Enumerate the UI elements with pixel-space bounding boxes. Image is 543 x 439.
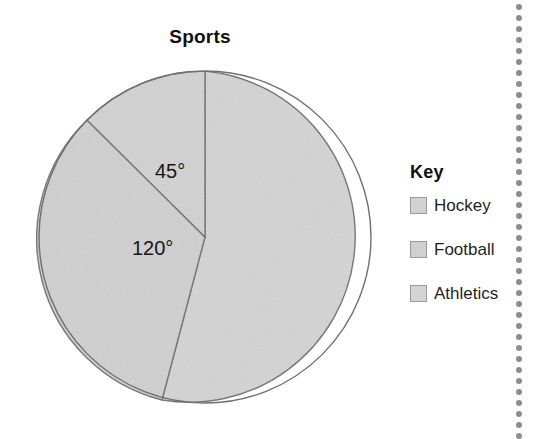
- rule-dot: [516, 378, 522, 384]
- rule-dot: [516, 191, 522, 197]
- legend-label-athletics: Athletics: [434, 285, 498, 302]
- rule-dot: [516, 323, 522, 329]
- rule-dot: [516, 26, 522, 32]
- legend-label-hockey: Hockey: [434, 197, 491, 214]
- rule-dot: [516, 125, 522, 131]
- rule-dot: [516, 334, 522, 340]
- slice-angle-label-football: 120°: [132, 237, 173, 259]
- chart-legend: Key Hockey Football Athletics: [410, 162, 520, 305]
- rule-dot: [516, 4, 522, 10]
- rule-dot: [516, 356, 522, 362]
- legend-item-athletics: Athletics: [410, 281, 520, 305]
- rule-dot: [516, 136, 522, 142]
- rule-dot: [516, 367, 522, 373]
- slice-angle-label-hockey: 45°: [155, 160, 185, 182]
- rule-dot: [516, 400, 522, 406]
- rule-dot: [516, 246, 522, 252]
- rule-dot: [516, 202, 522, 208]
- rule-dot: [516, 422, 522, 428]
- rule-dot: [516, 114, 522, 120]
- pie-chart-figure: Sports 45° 120°: [0, 0, 400, 435]
- rule-dot: [516, 15, 522, 21]
- rule-dot: [516, 290, 522, 296]
- rule-dot: [516, 301, 522, 307]
- rule-dot: [516, 257, 522, 263]
- legend-item-football: Football: [410, 237, 520, 261]
- legend-label-football: Football: [434, 241, 494, 258]
- pie-chart-svg: 45° 120°: [0, 0, 400, 435]
- rule-dot: [516, 48, 522, 54]
- rule-dot: [516, 279, 522, 285]
- legend-title: Key: [410, 162, 520, 183]
- rule-dot: [516, 169, 522, 175]
- legend-swatch-football: [410, 241, 427, 258]
- rule-dot: [516, 103, 522, 109]
- legend-swatch-hockey: [410, 197, 427, 214]
- rule-dot: [516, 312, 522, 318]
- rule-dot: [516, 235, 522, 241]
- rule-dot: [516, 224, 522, 230]
- rule-dot: [516, 268, 522, 274]
- rule-dot: [516, 345, 522, 351]
- rule-dot: [516, 158, 522, 164]
- rule-dot: [516, 59, 522, 65]
- rule-dot: [516, 37, 522, 43]
- rule-dot: [516, 389, 522, 395]
- legend-swatch-athletics: [410, 285, 427, 302]
- rule-dot: [516, 92, 522, 98]
- rule-dot: [516, 411, 522, 417]
- rule-dot: [516, 81, 522, 87]
- rule-dot: [516, 180, 522, 186]
- rule-dot: [516, 213, 522, 219]
- legend-item-hockey: Hockey: [410, 193, 520, 217]
- dotted-divider-rule: [516, 0, 524, 435]
- rule-dot: [516, 147, 522, 153]
- rule-dot: [516, 70, 522, 76]
- rule-dot: [516, 433, 522, 439]
